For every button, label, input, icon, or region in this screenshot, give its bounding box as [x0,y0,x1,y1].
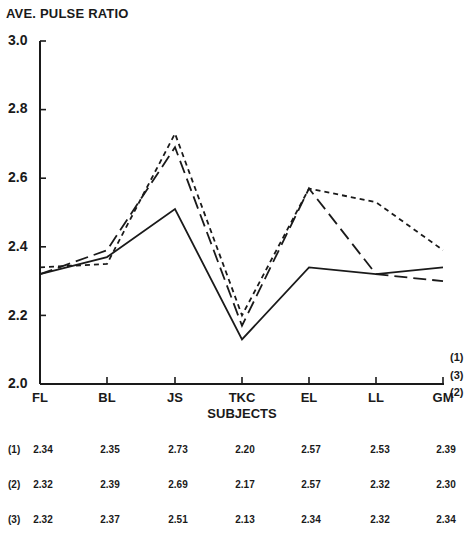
row-label: (2) [8,479,20,490]
table-row: (2) 2.32 2.39 2.69 2.17 2.57 2.32 2.30 [0,479,472,495]
table-cell: 2.39 [436,444,455,455]
table-cell: 2.32 [33,479,52,490]
legend-series-2: (2) [450,386,463,398]
table-cell: 2.34 [301,514,320,525]
series-line-1 [40,134,443,316]
x-tick-label: JS [167,390,183,405]
table-cell: 2.32 [33,514,52,525]
table-cell: 2.39 [100,479,119,490]
table-row: (3) 2.32 2.37 2.51 2.13 2.34 2.32 2.34 [0,514,472,530]
table-cell: 2.30 [436,479,455,490]
table-cell: 2.53 [370,444,389,455]
y-tick-label: 2.8 [8,100,27,116]
series-lines [40,134,443,340]
table-cell: 2.32 [370,514,389,525]
table-row: (1) 2.34 2.35 2.73 2.20 2.57 2.53 2.39 [0,444,472,460]
x-tick-label: LL [368,390,384,405]
table-cell: 2.34 [33,444,52,455]
chart-plot-area [0,0,472,549]
y-tick-label: 3.0 [8,32,27,48]
table-cell: 2.13 [235,514,254,525]
table-cell: 2.35 [100,444,119,455]
row-label: (3) [8,514,20,525]
table-cell: 2.57 [301,479,320,490]
x-tick-label: FL [32,390,48,405]
table-cell: 2.34 [436,514,455,525]
axes [40,41,444,384]
series-line-2 [40,147,443,325]
table-cell: 2.69 [168,479,187,490]
series-line-3 [40,209,443,339]
table-cell: 2.51 [168,514,187,525]
table-cell: 2.32 [370,479,389,490]
legend-series-1: (1) [450,351,463,363]
table-cell: 2.17 [235,479,254,490]
table-cell: 2.20 [235,444,254,455]
x-tick-label: TKC [229,390,256,405]
x-tick-label: EL [301,390,318,405]
table-cell: 2.37 [100,514,119,525]
table-cell: 2.73 [168,444,187,455]
y-tick-label: 2.4 [8,238,27,254]
legend-series-3: (3) [450,369,463,381]
y-tick-label: 2.0 [8,375,27,391]
y-tick-label: 2.2 [8,307,27,323]
y-axis-title: AVE. PULSE RATIO [6,6,129,21]
x-tick-label: BL [98,390,115,405]
y-tick-label: 2.6 [8,169,27,185]
x-axis-title: SUBJECTS [207,406,276,421]
table-cell: 2.57 [301,444,320,455]
row-label: (1) [8,444,20,455]
